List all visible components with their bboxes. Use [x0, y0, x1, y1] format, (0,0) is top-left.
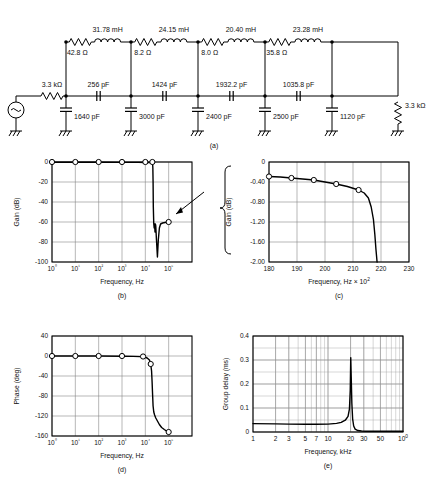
figure-container: 3.3 kΩ31.78 mH42.8 Ω256 pF24.15 mH8.2 Ω1…	[0, 0, 429, 489]
y-tick-label: -120	[35, 412, 48, 419]
shunt-capacitor-symbol-0	[60, 108, 72, 111]
x-axis-title: Frequency, Hz × 102	[308, 277, 370, 286]
data-point-marker	[96, 353, 101, 358]
series-resistor-symbol-1	[135, 39, 157, 46]
source-resistor-label: 3.3 kΩ	[42, 81, 62, 88]
shunt-capacitor-label-1: 3000 pF	[139, 113, 165, 121]
y-tick-label: -0.80	[250, 198, 265, 205]
x-axis-ticklabels: 1235710203050100	[251, 434, 408, 442]
y-tick-label: -160	[35, 432, 48, 439]
y-axis-title: Group delay (ms)	[222, 358, 230, 411]
x-tick-label: 220	[376, 265, 387, 272]
plot-gridlines	[253, 336, 403, 432]
plot-gridlines	[52, 336, 192, 436]
y-tick-label: 0	[261, 158, 265, 165]
data-point-marker	[166, 429, 171, 434]
series-inductor-label-2: 20.40 mH	[226, 26, 256, 33]
data-point-marker	[96, 159, 101, 164]
y-axis-ticklabels: 400-40-80-120-160	[35, 332, 48, 439]
detail-callout-arrowhead	[176, 207, 183, 214]
y-axis-ticklabels: 0.40.30.20.10	[240, 332, 249, 435]
y-tick-label: 0.1	[240, 404, 249, 411]
shunt-capacitor-symbol-2	[192, 108, 204, 111]
y-tick-label: -80	[39, 238, 49, 245]
source-resistor-symbol	[41, 93, 63, 100]
ground-symbol	[325, 127, 338, 136]
y-tick-label: 40	[41, 332, 49, 339]
series-resistor-symbol-3	[269, 39, 291, 46]
x-axis-title: Frequency, Hz	[100, 452, 144, 460]
data-point-marker	[73, 353, 78, 358]
y-tick-label: -40	[39, 198, 49, 205]
x-tick-label: 10⁴	[141, 264, 150, 272]
panel-caption-a: (a)	[210, 142, 219, 150]
x-tick-label: 10⁰	[47, 264, 56, 272]
y-tick-label: 0.2	[240, 380, 249, 387]
y-tick-label: -100	[35, 258, 48, 265]
x-tick-label: 30	[360, 435, 368, 442]
series-inductor-label-0: 31.78 mH	[92, 26, 122, 33]
node-dot	[64, 40, 68, 44]
series-capacitor-label-3: 1035.8 pF	[283, 81, 315, 89]
data-point-marker	[73, 159, 78, 164]
sine-glyph	[11, 109, 21, 112]
ground-symbol	[191, 127, 204, 136]
x-axis-title: Frequency, kHz	[304, 448, 352, 456]
data-point-marker	[148, 361, 153, 366]
data-point-marker	[289, 175, 294, 180]
data-point-marker	[334, 181, 339, 186]
series-resistor-label-1: 8.2 Ω	[134, 49, 151, 56]
series-inductor-label-1: 24.15 mH	[159, 26, 189, 33]
data-point-marker	[311, 177, 316, 182]
series-resistor-label-2: 8.0 Ω	[201, 49, 218, 56]
y-tick-label: 0	[245, 428, 249, 435]
panel-caption-b: (b)	[118, 292, 127, 300]
x-tick-label: 180	[264, 265, 275, 272]
data-point-marker	[356, 187, 361, 192]
x-axis-ticklabels: 10⁰10¹10²10³10⁴10⁵	[47, 264, 173, 272]
y-axis-ticklabels: 0-20-40-60-80-100	[35, 158, 48, 265]
x-tick-label: 100	[398, 434, 408, 442]
x-tick-label: 10²	[94, 438, 103, 446]
series-capacitor-label-1: 1424 pF	[152, 81, 178, 89]
ground-symbol	[258, 127, 271, 136]
series-resistor-symbol-2	[202, 39, 224, 46]
shunt-capacitor-symbol-3	[259, 108, 271, 111]
x-tick-label: 10	[324, 435, 332, 442]
data-point-marker	[166, 219, 171, 224]
x-tick-label: 210	[348, 265, 359, 272]
x-tick-label: 10³	[118, 438, 127, 446]
x-tick-label: 7	[315, 435, 319, 442]
ground-symbol	[124, 127, 137, 136]
y-tick-label: -40	[39, 372, 49, 379]
data-point-marker	[266, 174, 271, 179]
x-tick-label: 10⁵	[164, 438, 173, 446]
y-tick-label: -2.00	[250, 258, 265, 265]
y-tick-label: -1.20	[250, 218, 265, 225]
data-point-marker	[119, 159, 124, 164]
y-tick-label: 0.3	[240, 356, 249, 363]
x-tick-label: 10¹	[71, 438, 80, 446]
plot-gridlines	[52, 162, 192, 262]
panel-caption-d: (d)	[118, 466, 127, 474]
series-resistor-label-0: 42.8 Ω	[67, 49, 88, 56]
y-axis-title: Gain (dB)	[13, 197, 21, 226]
y-axis-title: Gain (dB)	[225, 197, 233, 226]
series-capacitor-label-2: 1932.2 pF	[216, 81, 248, 89]
series-inductor-symbol-3	[295, 39, 321, 42]
shunt-capacitor-symbol-4	[326, 108, 338, 111]
x-tick-label: 10¹	[71, 264, 80, 272]
ground-symbol	[59, 127, 72, 136]
x-tick-label: 200	[320, 265, 331, 272]
x-axis-ticklabels: 180190200210220230	[264, 265, 415, 272]
series-capacitor-label-0: 256 pF	[88, 81, 110, 89]
x-tick-label: 10⁴	[141, 438, 150, 446]
ground-symbol	[391, 127, 404, 136]
y-tick-label: 0.4	[240, 332, 249, 339]
x-tick-label: 230	[404, 265, 415, 272]
node-dot	[196, 40, 200, 44]
data-point-marker	[49, 353, 54, 358]
y-tick-label: 0	[44, 158, 48, 165]
y-axis-title: Phase (deg)	[13, 367, 21, 404]
x-axis-ticklabels: 10⁰10¹10²10³10⁴10⁵	[47, 438, 173, 446]
